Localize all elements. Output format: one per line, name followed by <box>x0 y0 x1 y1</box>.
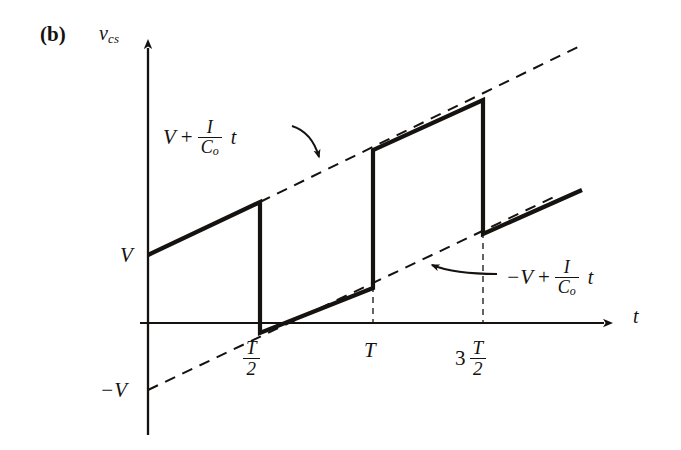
fraction-numerator: T <box>243 338 260 358</box>
fraction-denominator: 2 <box>470 358 487 379</box>
lower-envelope-equation: −V + I Co t <box>506 258 593 297</box>
fraction-numerator: T <box>470 338 487 358</box>
x-tick-label-T: T <box>364 338 376 363</box>
fraction-denominator: 2 <box>243 358 260 379</box>
equation-term-V: V <box>163 125 176 150</box>
y-tick-label-V: V <box>120 243 133 268</box>
denominator-subscript: o <box>570 284 576 298</box>
fraction-numerator: I <box>555 258 579 277</box>
fraction-I-over-Co: I Co <box>555 258 579 297</box>
y-axis-label-base: v <box>99 22 108 44</box>
upper-envelope-dashed-line <box>260 44 584 202</box>
fraction-I-over-Co: I Co <box>198 118 222 157</box>
upper-envelope-equation: V + I Co t <box>163 118 236 157</box>
equation-term-t: t <box>583 266 594 289</box>
x-tick-label-3T-over-2: 3 T 2 <box>455 338 486 379</box>
fraction-denominator: Co <box>555 277 579 297</box>
coefficient-3: 3 <box>455 346 470 371</box>
x-axis-label: t <box>633 305 639 328</box>
fraction-numerator: I <box>198 118 222 137</box>
panel-label: (b) <box>40 22 66 47</box>
x-tick-label-T-over-2: T 2 <box>243 338 260 379</box>
equation-plus-operator: + <box>537 265 551 290</box>
y-tick-label-negative-V: −V <box>100 378 127 403</box>
lower-annotation-arrow <box>432 265 497 274</box>
fraction-T-over-2: T 2 <box>470 338 487 379</box>
denominator-base: C <box>558 277 570 297</box>
y-axis-label-subscript: cs <box>108 31 119 46</box>
equation-term-t: t <box>226 126 237 149</box>
denominator-base: C <box>201 137 213 157</box>
upper-annotation-arrow <box>292 126 319 157</box>
denominator-subscript: o <box>213 144 219 158</box>
equation-plus-operator: + <box>180 125 194 150</box>
fraction-denominator: Co <box>198 137 222 157</box>
equation-term-negative-V: −V <box>506 265 533 290</box>
fraction-T-over-2: T 2 <box>243 338 260 379</box>
y-axis-label: vcs <box>99 22 119 47</box>
